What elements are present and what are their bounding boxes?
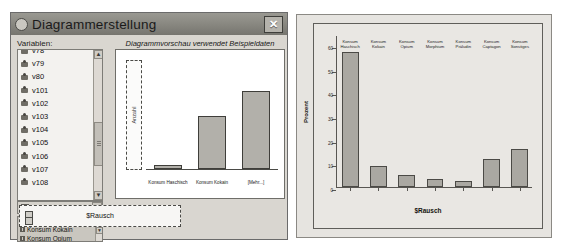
list-item[interactable]: v105 [18, 136, 92, 149]
preview-x-label: [Mehr...] [236, 180, 276, 186]
list-item-label: v107 [32, 165, 48, 174]
y-axis-tick-label: 10 [319, 164, 333, 169]
dialog-titlebar[interactable]: Diagrammerstellung ✕ [11, 13, 287, 35]
chart-builder-dialog: Diagrammerstellung ✕ Variablen: v78 v79 … [10, 12, 288, 240]
x-axis-tick [407, 188, 408, 191]
chart-window-icon [15, 18, 28, 31]
y-axis-tick-label: 40 [319, 93, 333, 98]
y-axis-title: Prozent [303, 101, 309, 123]
list-item[interactable]: v79 [18, 57, 92, 70]
list-item-label: v108 [32, 178, 48, 187]
list-item-label: Konsum Kokain [27, 226, 73, 233]
result-chart-frame: Prozent 0102030405060Konsum HaschischKon… [296, 14, 552, 238]
x-axis-tick [350, 188, 351, 191]
list-item-label: v105 [32, 138, 48, 147]
list-item-label: v78 [32, 49, 44, 55]
list-item-label: Konsum Opium [27, 235, 72, 242]
x-axis-tick [463, 188, 464, 191]
x-axis-tick-label: Konsum Opium [393, 39, 421, 49]
list-item-label: v80 [32, 72, 44, 81]
preview-x-label: Konsum Haschisch [148, 180, 188, 186]
result-chart-area: Prozent 0102030405060Konsum HaschischKon… [313, 23, 543, 229]
list-item-label: v102 [32, 99, 48, 108]
scale-variable-icon [21, 113, 29, 121]
list-item[interactable]: v101 [18, 84, 92, 97]
preview-x-label: Konsum Kokain [192, 180, 232, 186]
x-axis [336, 187, 532, 188]
chart-preview-panel[interactable]: Anzahl Konsum HaschischKonsum Kokain[Meh… [115, 49, 285, 199]
close-icon[interactable]: ✕ [264, 16, 283, 33]
y-axis-tick-label: 30 [319, 116, 333, 121]
list-item[interactable]: v78 [18, 49, 92, 57]
scale-variable-icon [21, 152, 29, 160]
scroll-down-icon[interactable]: ▼ [94, 191, 103, 200]
x-axis-tick-label: Konsum Präludin [449, 39, 477, 49]
x-axis-tick-label: Konsum Sonstiges [506, 39, 534, 49]
scale-variable-icon [21, 126, 29, 134]
dialog-title: Diagrammerstellung [32, 17, 156, 32]
list-item[interactable]: v103 [18, 110, 92, 123]
preview-caption: Diagrammvorschau verwendet Beispieldaten [115, 39, 285, 48]
list-item[interactable]: Konsum Opium [18, 234, 102, 242]
scale-variable-icon [21, 49, 29, 55]
scale-variable-icon [21, 139, 29, 147]
y-axis-tick-label: 60 [319, 45, 333, 50]
list-item[interactable]: v106 [18, 150, 92, 163]
chart-bar [427, 179, 444, 187]
scroll-up-icon[interactable]: ▲ [94, 50, 103, 59]
y-axis [336, 36, 337, 188]
x-axis-tick [435, 188, 436, 191]
chart-bar [483, 159, 500, 187]
scale-variable-icon [21, 99, 29, 107]
legend-label: $Rausch [20, 212, 180, 219]
list-item[interactable]: v102 [18, 97, 92, 110]
preview-bar [154, 165, 181, 169]
list-item-label: v79 [32, 59, 44, 68]
list-item-label: v103 [32, 112, 48, 121]
preview-x-axis [146, 169, 278, 170]
scrollbar-thumb[interactable] [94, 122, 103, 166]
result-chart-plot: Prozent 0102030405060Konsum HaschischKon… [336, 36, 532, 188]
variables-listbox[interactable]: v78 v79 v80 v101 v102 v103 v104 v105 v10… [17, 49, 103, 201]
scale-variable-icon [21, 73, 29, 81]
scale-variable-icon [21, 165, 29, 173]
list-item[interactable]: v108 [18, 176, 92, 189]
list-item[interactable]: v107 [18, 163, 92, 176]
x-axis-title: $Rausch [314, 207, 542, 214]
y-axis-drop-zone[interactable]: Anzahl [126, 60, 142, 170]
chart-bar [398, 175, 415, 187]
list-item[interactable]: v104 [18, 123, 92, 136]
y-axis-drop-zone-label: Anzahl [131, 107, 137, 124]
preview-chart: Konsum HaschischKonsum Kokain[Mehr...] [146, 58, 278, 192]
y-axis-tick-label: 20 [319, 140, 333, 145]
x-axis-tick [378, 188, 379, 191]
list-item-label: v104 [32, 125, 48, 134]
list-item[interactable]: v80 [18, 70, 92, 83]
x-axis-tick [492, 188, 493, 191]
nominal-variable-icon [20, 227, 25, 232]
preview-bar [198, 116, 225, 169]
legend-drop-zone[interactable]: $Rausch [19, 205, 181, 227]
x-axis-tick-label: Konsum Morphium [421, 39, 449, 49]
chart-bar [511, 149, 528, 187]
scale-variable-icon [21, 86, 29, 94]
variables-label: Variablen: [17, 39, 52, 48]
chart-bar [455, 181, 472, 187]
preview-bar [242, 91, 269, 169]
y-axis-tick-label: 50 [319, 69, 333, 74]
variables-list-items: v78 v79 v80 v101 v102 v103 v104 v105 v10… [18, 49, 92, 189]
chart-bar [370, 166, 387, 187]
scroll-down-icon[interactable]: ▼ [96, 227, 103, 234]
list-item-label: v101 [32, 86, 48, 95]
nominal-variable-icon [20, 236, 25, 241]
x-axis-tick-label: Konsum Haschisch [336, 39, 364, 49]
chart-bar [342, 52, 359, 187]
scale-variable-icon [21, 178, 29, 186]
x-axis-tick-label: Konsum Kokain [364, 39, 392, 49]
scale-variable-icon [21, 60, 29, 68]
list-item-label: v106 [32, 152, 48, 161]
y-axis-tick-label: 0 [319, 188, 333, 193]
x-axis-tick [520, 188, 521, 191]
variables-scrollbar[interactable]: ▲ ▼ [93, 50, 102, 200]
x-axis-tick-label: Konsum Captagon [477, 39, 505, 49]
